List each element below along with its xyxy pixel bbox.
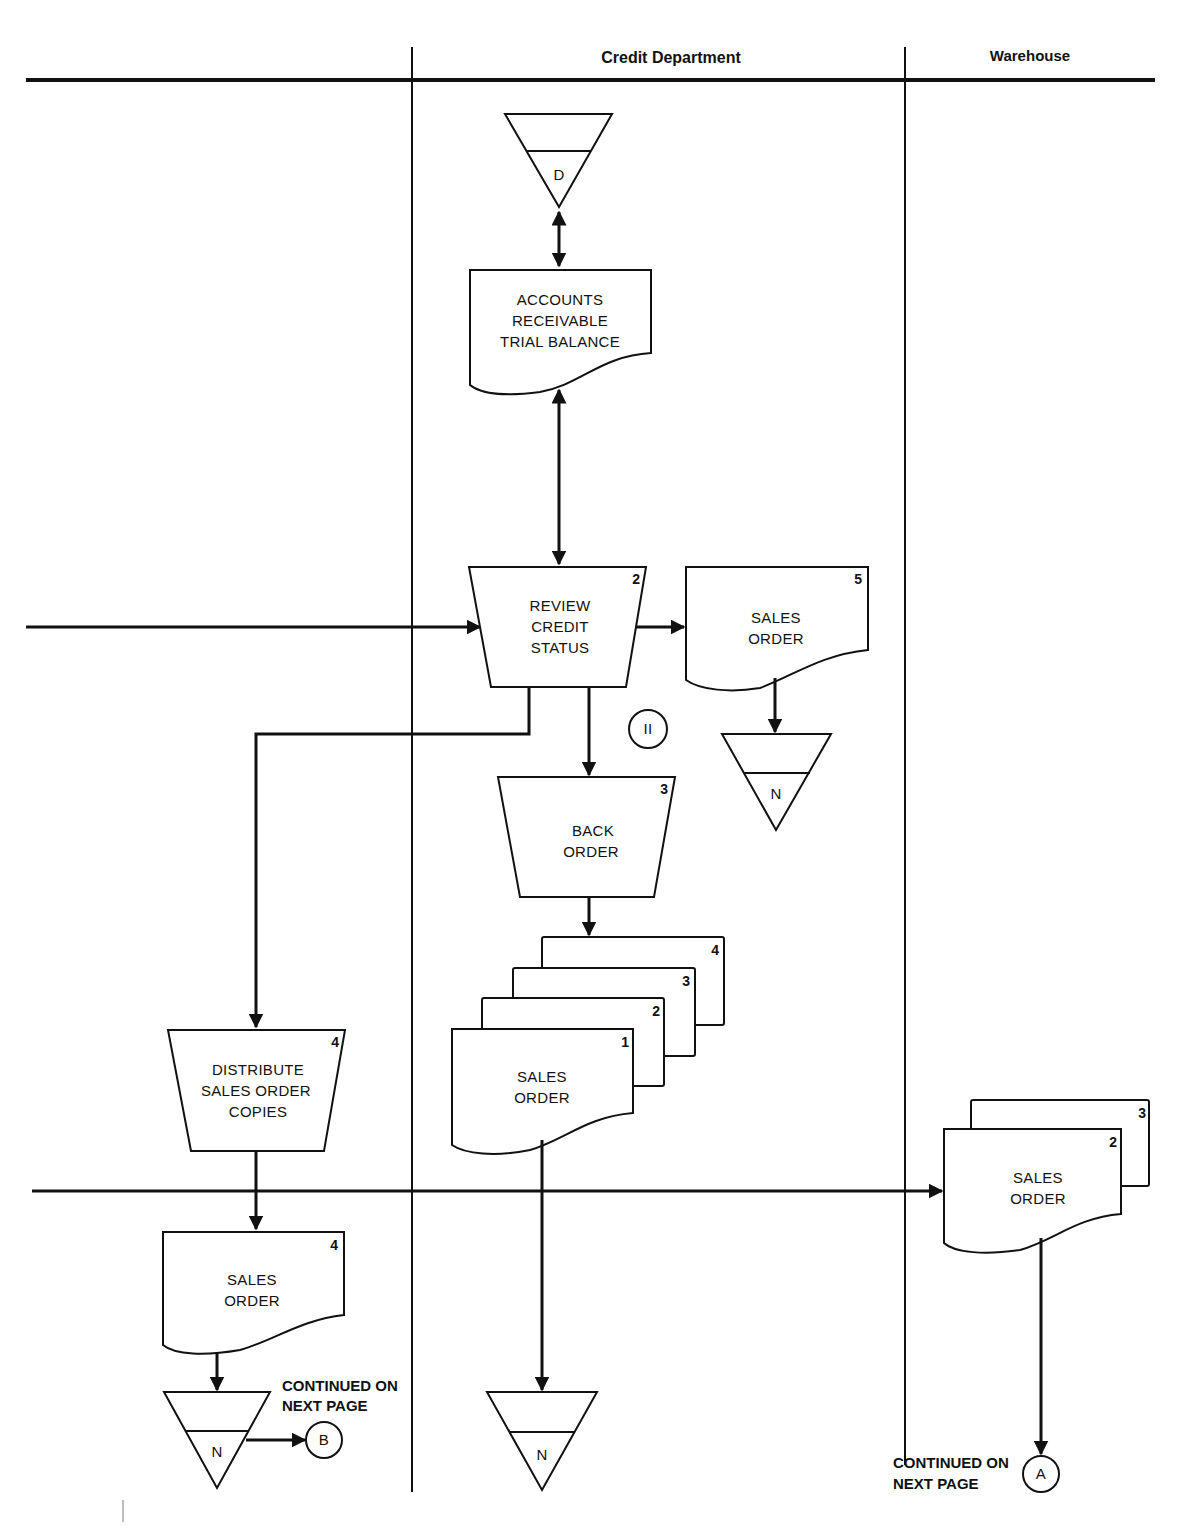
operation-distribute-sales-order-copies: 4 DISTRIBUTE SALES ORDER COPIES bbox=[168, 1030, 345, 1151]
document-sales-order-5: 5 SALES ORDER bbox=[686, 567, 868, 690]
operation-back-order: 3 BACK ORDER bbox=[498, 777, 675, 897]
svg-text:N: N bbox=[211, 1443, 222, 1460]
svg-text:B: B bbox=[319, 1431, 329, 1448]
svg-text:5: 5 bbox=[854, 571, 862, 587]
flow-review-to-distribute bbox=[256, 687, 529, 1027]
svg-text:3: 3 bbox=[682, 973, 690, 989]
svg-text:2: 2 bbox=[1109, 1134, 1117, 1150]
svg-text:2: 2 bbox=[652, 1003, 660, 1019]
svg-text:CREDIT: CREDIT bbox=[531, 618, 589, 635]
svg-text:ORDER: ORDER bbox=[514, 1089, 570, 1106]
svg-text:REVIEW: REVIEW bbox=[530, 597, 592, 614]
svg-text:A: A bbox=[1036, 1465, 1046, 1482]
svg-text:SALES: SALES bbox=[517, 1068, 567, 1085]
svg-text:ORDER: ORDER bbox=[563, 843, 619, 860]
svg-text:SALES ORDER: SALES ORDER bbox=[201, 1082, 311, 1099]
continued-note-b-line2: NEXT PAGE bbox=[282, 1397, 368, 1414]
svg-text:ORDER: ORDER bbox=[748, 630, 804, 647]
svg-text:4: 4 bbox=[711, 942, 719, 958]
offline-file-d: D bbox=[505, 114, 612, 207]
annotation-circle-ii: II bbox=[629, 710, 667, 748]
svg-text:N: N bbox=[770, 785, 781, 802]
offline-file-n-1: N bbox=[722, 734, 831, 830]
continued-note-a-line2: NEXT PAGE bbox=[893, 1475, 979, 1492]
multi-document-sales-order-warehouse: 3 2 SALES ORDER bbox=[944, 1100, 1149, 1253]
document-ar-trial-balance: ACCOUNTS RECEIVABLE TRIAL BALANCE bbox=[470, 270, 651, 394]
svg-text:SALES: SALES bbox=[227, 1271, 277, 1288]
offline-file-n-3: N bbox=[487, 1392, 597, 1490]
operation-review-credit-status: 2 REVIEW CREDIT STATUS bbox=[469, 567, 646, 687]
connector-a[interactable]: A bbox=[1023, 1456, 1059, 1492]
continued-note-b-line1: CONTINUED ON bbox=[282, 1377, 398, 1394]
svg-text:ORDER: ORDER bbox=[1010, 1190, 1066, 1207]
svg-text:3: 3 bbox=[660, 781, 668, 797]
svg-text:D: D bbox=[553, 166, 564, 183]
lane-header-warehouse: Warehouse bbox=[990, 47, 1070, 64]
svg-text:STATUS: STATUS bbox=[531, 639, 590, 656]
svg-text:3: 3 bbox=[1138, 1105, 1146, 1121]
svg-text:4: 4 bbox=[331, 1034, 339, 1050]
svg-text:1: 1 bbox=[621, 1034, 629, 1050]
svg-text:SALES: SALES bbox=[751, 609, 801, 626]
svg-text:4: 4 bbox=[330, 1237, 338, 1253]
svg-text:COPIES: COPIES bbox=[229, 1103, 287, 1120]
svg-text:ACCOUNTS: ACCOUNTS bbox=[517, 291, 604, 308]
svg-text:BACK: BACK bbox=[572, 822, 614, 839]
svg-text:TRIAL BALANCE: TRIAL BALANCE bbox=[500, 333, 620, 350]
svg-text:RECEIVABLE: RECEIVABLE bbox=[512, 312, 608, 329]
svg-text:N: N bbox=[536, 1446, 547, 1463]
multi-document-sales-order-1-4: 4 3 2 1 SALES ORDER bbox=[452, 937, 724, 1154]
svg-text:DISTRIBUTE: DISTRIBUTE bbox=[212, 1061, 304, 1078]
svg-text:2: 2 bbox=[632, 571, 640, 587]
document-sales-order-4: 4 SALES ORDER bbox=[163, 1232, 344, 1354]
svg-text:ORDER: ORDER bbox=[224, 1292, 280, 1309]
svg-text:SALES: SALES bbox=[1013, 1169, 1063, 1186]
connector-b[interactable]: B bbox=[306, 1422, 342, 1458]
svg-text:II: II bbox=[644, 720, 653, 737]
continued-note-a-line1: CONTINUED ON bbox=[893, 1454, 1009, 1471]
flowchart-canvas: Credit Department Warehouse D ACCOUNTS R… bbox=[0, 0, 1197, 1538]
lane-header-credit-department: Credit Department bbox=[601, 49, 741, 66]
